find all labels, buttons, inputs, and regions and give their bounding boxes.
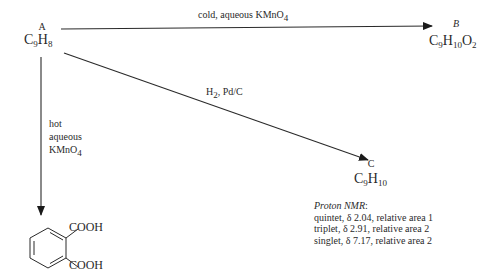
arrow-a-to-b <box>61 26 432 29</box>
product-cooh-top: COOH <box>69 220 103 234</box>
nmr-signal: triplet, δ 2.91, relative area 2 <box>314 223 433 235</box>
compound-c-formula: C9H10 <box>354 171 387 187</box>
compound-b-label: B <box>446 18 466 30</box>
compound-b-formula: C9H10O2 <box>429 33 477 49</box>
reagent-line-aqueous: aqueous <box>49 131 82 143</box>
reagent-a-to-product: hot aqueous KMnO4 <box>49 118 82 156</box>
nmr-signal: singlet, δ 7.17, relative area 2 <box>314 235 433 247</box>
nmr-signal: quintet, δ 2.04, relative area 1 <box>314 212 433 224</box>
compound-c-label: C <box>361 158 381 170</box>
reagent-line-kmno4: KMnO4 <box>49 144 82 156</box>
compound-a-formula: C9H8 <box>24 32 52 48</box>
reagent-a-to-c: H2, Pd/C <box>206 86 243 98</box>
arrow-a-to-c <box>64 53 368 160</box>
nmr-data-block: Proton NMR: quintet, δ 2.04, relative ar… <box>314 200 433 246</box>
reagent-line-hot: hot <box>49 118 82 130</box>
product-cooh-bottom: COOH <box>69 258 103 272</box>
nmr-title: Proton NMR: <box>314 200 433 212</box>
reagent-a-to-b: cold, aqueous KMnO4 <box>198 9 288 21</box>
